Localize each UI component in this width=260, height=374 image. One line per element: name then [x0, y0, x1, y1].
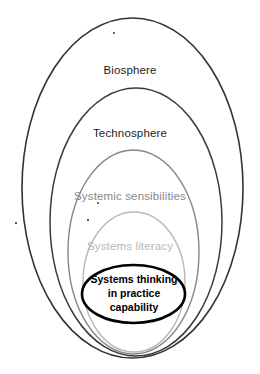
ring-label-technosphere: Technosphere [0, 127, 260, 140]
core-label-line-2: in practice [82, 286, 186, 300]
core-label-line-1: Systems thinking [82, 272, 186, 286]
nested-spheres-diagram: Biosphere Technosphere Systemic sensibil… [0, 0, 260, 374]
ring-label-biosphere: Biosphere [0, 64, 260, 77]
core-label-line-3: capability [82, 300, 186, 314]
artifact-speck-left [15, 222, 17, 224]
diagram-canvas [0, 0, 260, 374]
artifact-speck-mid [97, 202, 99, 204]
artifact-speck-top [113, 32, 115, 34]
ring-label-systems-literacy: Systems literacy [0, 240, 260, 253]
ring-label-systemic-sensibilities: Systemic sensibilities [0, 190, 260, 203]
core-label-systems-thinking: Systems thinking in practice capability [82, 272, 186, 315]
